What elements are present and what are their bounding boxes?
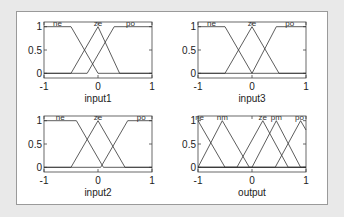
y-tick-label: 0.5 bbox=[182, 45, 196, 56]
y-tick-label: 0 bbox=[190, 162, 196, 173]
figure-canvas: 00.51-101input1nezepo00.51-101input3neze… bbox=[0, 0, 344, 217]
y-tick-label: 0.5 bbox=[28, 45, 42, 56]
mf-label-po: po bbox=[126, 19, 135, 28]
x-axis-label: input3 bbox=[238, 93, 266, 104]
y-tick-label: 0 bbox=[36, 162, 42, 173]
mf-label-po: po bbox=[137, 113, 146, 122]
x-tick-label: 0 bbox=[249, 175, 255, 186]
y-tick-label: 0.5 bbox=[28, 139, 42, 150]
x-axis-label: input2 bbox=[84, 187, 112, 198]
mf-label-po: po bbox=[295, 113, 304, 122]
x-tick-label: 1 bbox=[303, 175, 309, 186]
mf-label-ze: ze bbox=[94, 113, 103, 122]
x-tick-label: -1 bbox=[40, 175, 49, 186]
y-tick-label: 0 bbox=[36, 68, 42, 79]
mf-label-ze: ze bbox=[248, 19, 257, 28]
y-tick-label: 1 bbox=[36, 21, 42, 32]
y-tick-label: 0.5 bbox=[182, 139, 196, 150]
axes-box bbox=[198, 22, 306, 78]
y-tick-label: 0 bbox=[190, 68, 196, 79]
x-axis-label: input1 bbox=[84, 93, 112, 104]
x-tick-label: -1 bbox=[40, 81, 49, 92]
mf-label-pm: pm bbox=[271, 113, 282, 122]
mf-label-ne: ne bbox=[207, 19, 216, 28]
axes-box bbox=[198, 116, 306, 172]
y-tick-label: 1 bbox=[36, 115, 42, 126]
y-tick-label: 1 bbox=[190, 21, 196, 32]
mf-label-po: po bbox=[285, 19, 294, 28]
mf-label-ze: ze bbox=[259, 113, 268, 122]
x-tick-label: 0 bbox=[95, 81, 101, 92]
x-tick-label: 0 bbox=[249, 81, 255, 92]
x-tick-label: 1 bbox=[303, 81, 309, 92]
mf-label-ne: ne bbox=[53, 19, 62, 28]
axes-box bbox=[44, 116, 152, 172]
x-axis-label: output bbox=[238, 187, 266, 198]
x-tick-label: 1 bbox=[149, 81, 155, 92]
x-tick-label: 1 bbox=[149, 175, 155, 186]
x-tick-label: 0 bbox=[95, 175, 101, 186]
mf-label-ze: ze bbox=[94, 19, 103, 28]
mf-label-ne: ne bbox=[56, 113, 65, 122]
axes-box bbox=[44, 22, 152, 78]
x-tick-label: -1 bbox=[194, 81, 203, 92]
x-tick-label: -1 bbox=[194, 175, 203, 186]
mf-label-ne: ne bbox=[195, 113, 204, 122]
mf-label-nm: nm bbox=[217, 113, 228, 122]
